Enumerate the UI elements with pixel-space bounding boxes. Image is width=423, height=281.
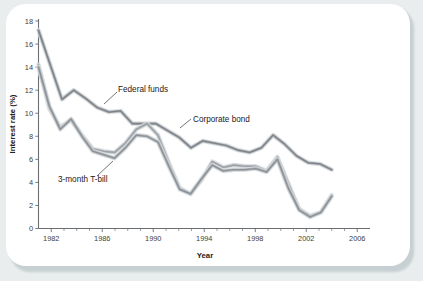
y-tick-label: 8: [29, 132, 33, 141]
x-tick-label: 1982: [43, 234, 59, 243]
y-tick-label: 10: [25, 109, 33, 118]
series-1: [39, 30, 332, 169]
corporate-bond-leader-line: [180, 119, 191, 128]
series-outline: [39, 30, 332, 169]
x-tick-label: 2002: [298, 234, 314, 243]
x-tick-label: 1994: [196, 234, 212, 243]
annotation-federal-funds: Federal funds: [118, 85, 168, 94]
y-tick-label: 16: [25, 40, 33, 49]
y-tick-label: 2: [29, 201, 33, 210]
t-bill-leader-line: [97, 161, 113, 176]
x-tick-label: 2006: [349, 234, 365, 243]
y-tick-label: 12: [25, 86, 33, 95]
y-tick-label: 4: [29, 178, 33, 187]
line-chart: 024681012141618 198219861990199419982002…: [0, 0, 423, 281]
x-tick-label: 1986: [94, 234, 110, 243]
figure-page: 024681012141618 198219861990199419982002…: [0, 0, 423, 281]
y-tick-label: 0: [29, 224, 33, 233]
x-tick-label: 1990: [145, 234, 161, 243]
y-tick-label: 14: [25, 63, 33, 72]
annotation-t-bill: 3-month T-bill: [58, 175, 108, 184]
y-tick-label: 18: [25, 17, 33, 26]
y-axis-title: Interest rate (%): [8, 94, 17, 153]
x-axis-title: Year: [197, 251, 213, 260]
y-tick-label: 6: [29, 155, 33, 164]
federal-funds-leader-line: [104, 92, 117, 104]
annotation-corporate-bond: Corporate bond: [193, 115, 250, 124]
x-tick-label: 1998: [247, 234, 263, 243]
y-axis-ticks: 024681012141618: [25, 17, 39, 234]
x-axis-ticks: 1982198619901994199820022006: [43, 229, 365, 243]
